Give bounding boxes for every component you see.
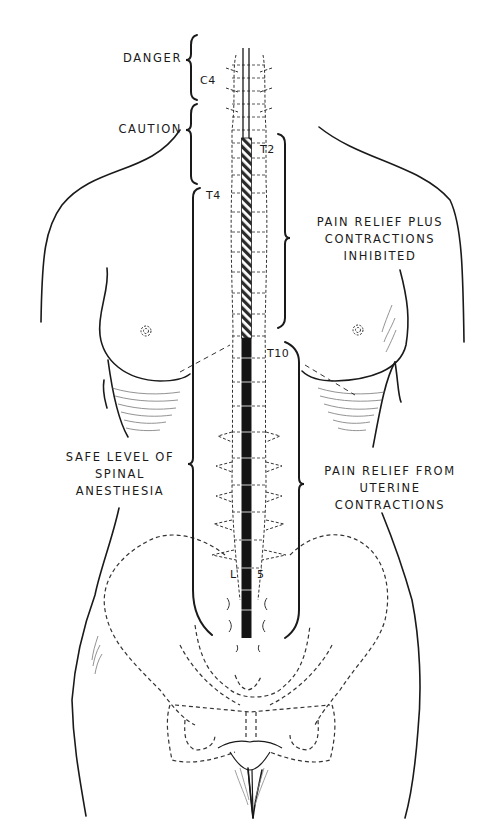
pain-relief-plus-bracket <box>278 134 290 328</box>
safe-level-line1: SAFE LEVEL OF <box>50 450 190 465</box>
pain-relief-plus-line1: PAIN RELIEF PLUS <box>300 215 460 230</box>
t2-marker: T2 <box>260 142 275 157</box>
spinal-anesthesia-diagram <box>0 0 502 838</box>
pain-relief-plus-line2: CONTRACTIONS <box>300 232 460 247</box>
left-shoulder-outline <box>41 130 180 322</box>
caution-label: CAUTION <box>82 122 182 137</box>
danger-label: DANGER <box>90 51 182 66</box>
safe-level-bracket <box>188 188 212 635</box>
pelvis-right-iliac <box>290 535 388 725</box>
pain-relief-from-line1: PAIN RELIEF FROM <box>310 464 470 479</box>
vertebral-column-right-edge <box>258 55 267 600</box>
solid-segment-t10-sacrum <box>242 338 252 638</box>
t10-marker: T10 <box>267 346 289 361</box>
right-nipple <box>353 325 363 335</box>
left-nipple <box>141 326 151 336</box>
l5-marker-left: L <box>230 567 237 582</box>
pain-relief-from-line2: UTERINE <box>310 481 470 496</box>
safe-level-line2: SPINAL <box>50 467 190 482</box>
pain-relief-from-line3: CONTRACTIONS <box>310 498 470 513</box>
hatched-segment-t2-t10 <box>242 138 252 338</box>
safe-level-line3: ANESTHESIA <box>50 484 190 499</box>
pain-relief-plus-line3: INHIBITED <box>300 249 460 264</box>
pain-relief-from-bracket <box>285 342 304 638</box>
left-breast-outline <box>100 268 190 381</box>
danger-bracket <box>186 35 197 100</box>
vertebral-column-left-edge <box>231 55 240 600</box>
l5-marker-right: 5 <box>257 567 265 582</box>
caution-bracket <box>186 104 197 184</box>
t4-marker: T4 <box>206 188 221 203</box>
c4-marker: C4 <box>200 73 216 88</box>
